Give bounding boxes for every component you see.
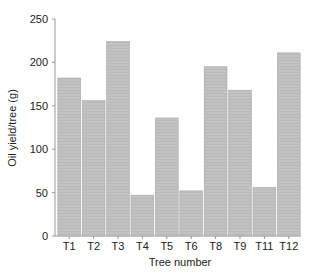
y-tick-label: 150 [30,100,48,112]
y-tick-label: 100 [30,143,48,155]
x-tick-label: T5 [160,240,173,252]
y-tick-label: 0 [42,230,48,242]
y-tick-label: 200 [30,56,48,68]
bar-t3 [107,42,130,236]
y-tick-label: 250 [30,13,48,25]
bar-t1 [58,78,81,236]
bar-t9 [229,90,252,236]
y-axis-label: Oil yield/tree (g) [6,89,18,167]
x-tick-label: T11 [255,240,273,252]
bar-chart: 050100150200250T1T2T3T4T5T6T8T9T11T12 [0,0,315,277]
x-tick-label: T3 [112,240,125,252]
bar-t12 [277,53,300,236]
y-tick-label: 50 [36,187,48,199]
x-tick-label: T6 [185,240,198,252]
x-tick-label: T12 [279,240,298,252]
x-tick-label: T1 [63,240,76,252]
bar-t11 [253,187,276,236]
bar-t5 [155,118,178,236]
bar-t8 [204,67,227,236]
x-tick-label: T4 [136,240,149,252]
x-tick-label: T9 [234,240,247,252]
bar-t2 [82,101,105,236]
x-axis-label: Tree number [149,256,212,268]
bar-t6 [180,191,203,236]
bar-t4 [131,195,154,236]
x-tick-label: T2 [87,240,100,252]
x-tick-label: T8 [209,240,222,252]
